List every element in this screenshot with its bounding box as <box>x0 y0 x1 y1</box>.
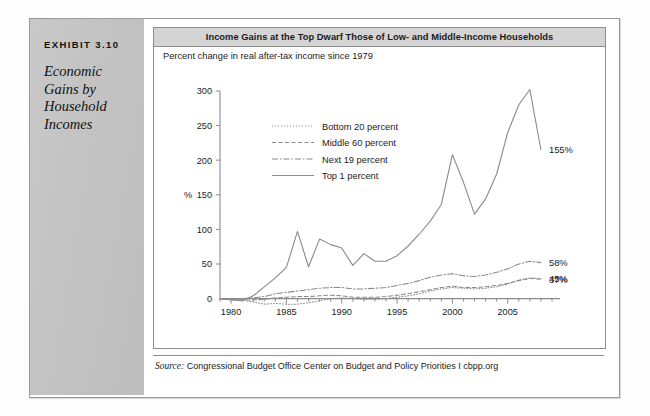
svg-text:Top 1 percent: Top 1 percent <box>322 171 379 181</box>
svg-text:300: 300 <box>197 86 212 96</box>
svg-text:0: 0 <box>207 294 212 304</box>
source-body: Congressional Budget Office Center on Bu… <box>187 361 499 371</box>
svg-text:2000: 2000 <box>442 307 462 317</box>
source-prefix: Source: <box>155 361 184 371</box>
exhibit-number: EXHIBIT 3.10 <box>44 39 119 50</box>
svg-text:1995: 1995 <box>387 307 407 317</box>
source-note: Source: Congressional Budget Office Cent… <box>155 361 498 371</box>
svg-text:155%: 155% <box>549 144 573 155</box>
svg-text:150: 150 <box>197 190 212 200</box>
svg-text:1980: 1980 <box>221 307 241 317</box>
chart-card: Income Gains at the Top Dwarf Those of L… <box>153 27 606 349</box>
svg-text:2005: 2005 <box>498 307 518 317</box>
svg-text:1985: 1985 <box>276 307 296 317</box>
svg-text:%: % <box>184 190 192 200</box>
svg-text:37%: 37% <box>549 274 568 285</box>
exhibit-sidebar: EXHIBIT 3.10 Economic Gains by Household… <box>30 19 144 395</box>
svg-text:1990: 1990 <box>332 307 352 317</box>
exhibit-page: EXHIBIT 3.10 Economic Gains by Household… <box>0 0 650 416</box>
svg-text:100: 100 <box>197 225 212 235</box>
svg-text:Middle 60 percent: Middle 60 percent <box>322 138 396 148</box>
svg-text:200: 200 <box>197 156 212 166</box>
svg-text:50: 50 <box>202 259 212 269</box>
svg-text:250: 250 <box>197 121 212 131</box>
svg-text:Bottom 20 percent: Bottom 20 percent <box>322 122 398 132</box>
source-divider <box>153 355 604 356</box>
line-chart-plot: 050100150200250300%198019851990199520002… <box>154 28 605 348</box>
svg-text:Next 19 percent: Next 19 percent <box>322 155 388 165</box>
exhibit-title: Economic Gains by Household Incomes <box>44 63 140 133</box>
svg-text:58%: 58% <box>549 257 568 268</box>
